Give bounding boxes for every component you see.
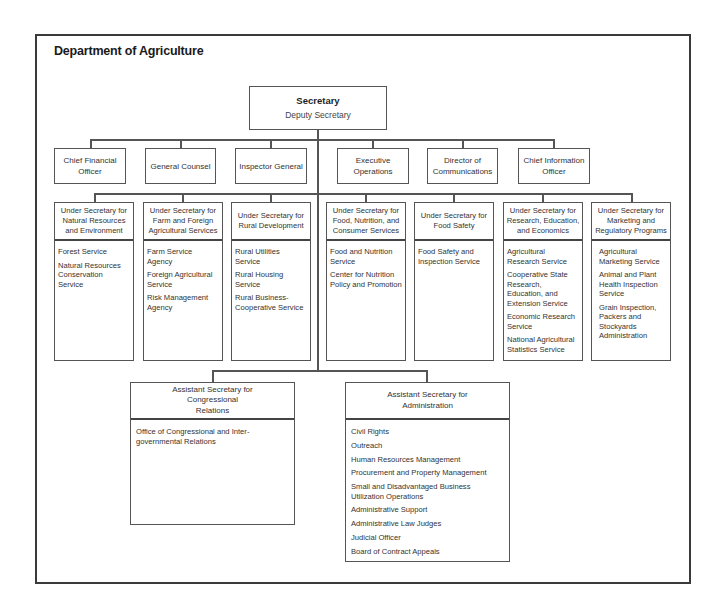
agency-list: Food and Nutrition Service Center for Nu…: [327, 241, 405, 289]
agency-list: Farm Service Agency Foreign Agricultural…: [144, 241, 222, 312]
undersec-box-natural-resources: Under Secretary for Natural Resources an…: [54, 202, 134, 361]
office-item: Human Resources Management: [351, 455, 505, 465]
connector-staff-horizontal: [90, 139, 555, 141]
office-item: Judicial Officer: [351, 533, 505, 543]
staff-label: General Counsel: [150, 161, 210, 172]
deputy-secretary-label: Deputy Secretary: [250, 110, 386, 120]
office-list: Office of Congressional and Inter-govern…: [131, 420, 294, 446]
office-list: Civil Rights Outreach Human Resources Ma…: [346, 420, 509, 556]
agency-list: Agricultural Marketing Service Animal an…: [592, 241, 670, 341]
agency-item: Food Safety and Inspection Service: [418, 247, 490, 266]
connector-undersec-drop: [542, 193, 544, 202]
agency-item: Animal and Plant Health Inspection Servi…: [599, 270, 667, 299]
connector-undersec-drop: [270, 193, 272, 202]
agency-item: Rural Utilities Service: [235, 247, 307, 266]
connector-main-vertical: [317, 129, 319, 370]
agency-item: Foreign Agricultural Service: [147, 270, 219, 289]
agency-item: Farm Service Agency: [147, 247, 219, 266]
staff-box-chief-information-officer: Chief Information Officer: [518, 148, 590, 184]
agency-item: Agricultural Research Service: [507, 247, 579, 266]
staff-label: Chief Information Officer: [521, 155, 587, 177]
chart-title: Department of Agriculture: [54, 44, 203, 58]
agency-list: Forest Service Natural Resources Conserv…: [55, 241, 133, 289]
asstsec-box-administration: Assistant Secretary for Administration C…: [345, 382, 510, 562]
agency-item: National Agricultural Statistics Service: [507, 335, 579, 354]
agency-item: Risk Management Agency: [147, 293, 219, 312]
secretary-title: Secretary: [250, 95, 386, 106]
office-item: Office of Congressional and Inter-govern…: [136, 427, 254, 446]
agency-item: Agricultural Marketing Service: [599, 247, 667, 266]
undersec-title: Under Secretary for Food Safety: [415, 203, 493, 241]
connector-asst-drop: [426, 370, 428, 382]
staff-box-executive-operations: Executive Operations: [337, 148, 409, 184]
office-item: Outreach: [351, 441, 505, 451]
undersec-box-marketing-regulatory: Under Secretary for Marketing and Regula…: [591, 202, 671, 361]
undersec-title: Under Secretary for Farm and Foreign Agr…: [144, 203, 222, 241]
agency-item: Rural Business-Cooperative Service: [235, 293, 307, 312]
staff-label: Executive Operations: [340, 155, 406, 177]
undersec-box-food-safety: Under Secretary for Food Safety Food Saf…: [414, 202, 494, 361]
connector-undersec-drop: [453, 193, 455, 202]
agency-item: Natural Resources Conservation Service: [58, 261, 130, 290]
secretary-box: Secretary Deputy Secretary: [249, 86, 387, 130]
asstsec-title: Assistant Secretary for Administration: [346, 383, 509, 420]
connector-staff-drop: [90, 139, 92, 148]
agency-item: Grain Inspection, Packers and Stockyards…: [599, 303, 667, 341]
undersec-box-research-education: Under Secretary for Research, Education,…: [503, 202, 583, 361]
undersec-title: Under Secretary for Food, Nutrition, and…: [327, 203, 405, 241]
connector-staff-drop: [372, 139, 374, 148]
asstsec-title: Assistant Secretary for Congressional Re…: [131, 383, 294, 420]
agency-item: Center for Nutrition Policy and Promotio…: [330, 270, 402, 289]
connector-staff-drop: [270, 139, 272, 148]
staff-label: Director of Communications: [430, 155, 495, 177]
agency-list: Rural Utilities Service Rural Housing Se…: [232, 241, 310, 312]
staff-box-director-of-communications: Director of Communications: [427, 148, 498, 184]
staff-label: Chief Financial Officer: [57, 155, 123, 177]
agency-list: Food Safety and Inspection Service: [415, 241, 493, 266]
office-item: Small and Disadvantaged Business Utiliza…: [351, 482, 505, 501]
connector-undersec-horizontal: [94, 193, 632, 195]
undersec-title: Under Secretary for Marketing and Regula…: [592, 203, 670, 241]
staff-box-inspector-general: Inspector General: [235, 148, 307, 184]
office-item: Administrative Support: [351, 505, 505, 515]
agency-list: Agricultural Research Service Cooperativ…: [504, 241, 582, 354]
agency-item: Rural Housing Service: [235, 270, 307, 289]
undersec-title: Under Secretary for Natural Resources an…: [55, 203, 133, 241]
connector-undersec-drop: [631, 193, 633, 202]
office-item: Procurement and Property Management: [351, 468, 505, 478]
connector-staff-drop: [180, 139, 182, 148]
undersec-title: Under Secretary for Research, Education,…: [504, 203, 582, 241]
office-item: Administrative Law Judges: [351, 519, 505, 529]
staff-label: Inspector General: [239, 161, 303, 172]
asstsec-box-congressional-relations: Assistant Secretary for Congressional Re…: [130, 382, 295, 525]
agency-item: Cooperative State Research, Education, a…: [507, 270, 579, 308]
staff-box-general-counsel: General Counsel: [145, 148, 216, 184]
staff-box-chief-financial-officer: Chief Financial Officer: [54, 148, 126, 184]
connector-undersec-drop: [182, 193, 184, 202]
connector-staff-drop: [462, 139, 464, 148]
office-item: Board of Contract Appeals: [351, 547, 505, 557]
undersec-box-food-nutrition: Under Secretary for Food, Nutrition, and…: [326, 202, 406, 361]
undersec-box-rural-development: Under Secretary for Rural Development Ru…: [231, 202, 311, 361]
agency-item: Forest Service: [58, 247, 130, 257]
office-item: Civil Rights: [351, 427, 505, 437]
undersec-title: Under Secretary for Rural Development: [232, 203, 310, 241]
connector-asst-drop: [212, 370, 214, 382]
connector-asst-horizontal: [212, 370, 427, 372]
connector-undersec-drop: [365, 193, 367, 202]
agency-item: Economic Research Service: [507, 312, 579, 331]
connector-staff-drop: [553, 139, 555, 148]
connector-undersec-drop: [94, 193, 96, 202]
undersec-box-farm-foreign: Under Secretary for Farm and Foreign Agr…: [143, 202, 223, 361]
agency-item: Food and Nutrition Service: [330, 247, 402, 266]
